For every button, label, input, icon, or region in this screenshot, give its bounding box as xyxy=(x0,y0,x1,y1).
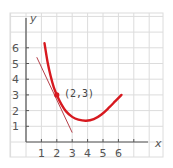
x-tick-label: 5 xyxy=(100,147,107,160)
curve xyxy=(44,43,121,121)
annotations xyxy=(54,92,59,97)
chart: 123456123456 x y (2,3) xyxy=(0,0,173,168)
y-tick-label: 5 xyxy=(12,58,19,71)
x-tick-label: 1 xyxy=(38,147,45,160)
y-tick-label: 6 xyxy=(12,42,19,55)
y-tick-label: 4 xyxy=(12,73,19,86)
y-tick-label: 3 xyxy=(12,89,19,102)
y-axis-label: y xyxy=(29,12,37,25)
y-tick-label: 1 xyxy=(12,120,19,133)
axes xyxy=(26,18,148,142)
grid-border xyxy=(10,13,163,157)
y-tick-label: 2 xyxy=(12,105,19,118)
x-tick-label: 6 xyxy=(115,147,122,160)
x-tick-label: 4 xyxy=(84,147,91,160)
x-tick-label: 2 xyxy=(53,147,60,160)
x-tick-label: 3 xyxy=(69,147,76,160)
point-label: (2,3) xyxy=(64,88,94,99)
point-marker xyxy=(54,92,59,97)
x-axis-label: x xyxy=(154,137,162,150)
grid xyxy=(10,13,163,157)
